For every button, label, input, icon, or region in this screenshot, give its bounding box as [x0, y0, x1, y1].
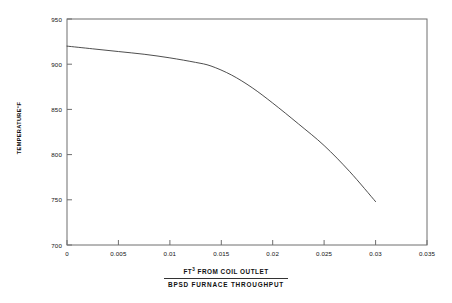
- plot-frame: [67, 19, 427, 245]
- x-tick-label: 0: [47, 250, 87, 257]
- x-tick-label: 0.035: [407, 250, 447, 257]
- y-tick-label: 800: [32, 151, 62, 158]
- y-tick-label: 700: [32, 242, 62, 249]
- y-tick-label: 900: [32, 61, 62, 68]
- x-axis-title-denominator: BPSD FURNACE THROUGHPUT: [164, 279, 288, 290]
- x-tick-label: 0.02: [253, 250, 293, 257]
- y-axis-title: TEMPERATURE°F: [16, 78, 22, 178]
- x-tick-label: 0.03: [356, 250, 396, 257]
- plot-area: [0, 0, 452, 303]
- x-tick-label: 0.005: [98, 250, 138, 257]
- chart-figure: TEMPERATURE°F 950 900 850 800 750 700 0 …: [0, 0, 452, 303]
- y-axis-unit: °F: [16, 102, 22, 108]
- x-tick-label: 0.01: [150, 250, 190, 257]
- y-tick-label: 850: [32, 106, 62, 113]
- x-axis-title-numerator: FT3 FROM COIL OUTLET: [164, 267, 288, 279]
- y-tick-label: 950: [32, 16, 62, 23]
- x-axis-title: FT3 FROM COIL OUTLET BPSD FURNACE THROUG…: [0, 267, 452, 290]
- y-axis-title-text: TEMPERATURE: [16, 108, 22, 154]
- x-tick-label: 0.025: [304, 250, 344, 257]
- x-tick-label: 0.015: [201, 250, 241, 257]
- y-tick-label: 750: [32, 196, 62, 203]
